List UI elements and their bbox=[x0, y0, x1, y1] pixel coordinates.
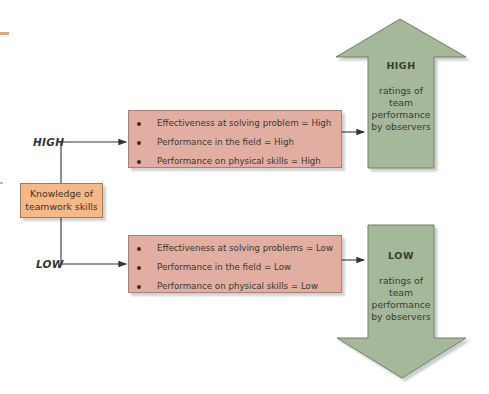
low-result-level: LOW bbox=[368, 250, 434, 262]
outcome-item: Performance in the field = High bbox=[137, 133, 341, 152]
outcome-item: Performance on physical skills = Low bbox=[137, 277, 341, 296]
bullet-icon bbox=[137, 141, 141, 145]
low-outcomes-box: Effectiveness at solving problems = Low … bbox=[128, 235, 342, 293]
bullet-icon bbox=[137, 122, 141, 126]
outcome-item: Effectiveness at solving problems = Low bbox=[137, 239, 341, 258]
outcome-item: Performance in the field = Low bbox=[137, 258, 341, 277]
predictor-label-line1: Knowledge of bbox=[30, 188, 93, 199]
high-outcomes-box: Effectiveness at solving problem = High … bbox=[128, 110, 342, 168]
outcome-item: Performance on physical skills = High bbox=[137, 152, 341, 171]
high-result-level: HIGH bbox=[368, 60, 434, 72]
bullet-icon bbox=[137, 266, 141, 270]
predictor-box: Knowledge of teamwork skills bbox=[20, 183, 103, 218]
high-level-label: HIGH bbox=[33, 136, 64, 148]
bullet-icon bbox=[137, 160, 141, 164]
low-level-label: LOW bbox=[36, 258, 64, 270]
high-result-text: HIGH ratings of team performance by obse… bbox=[368, 60, 434, 133]
bullet-icon bbox=[137, 285, 141, 289]
predictor-label-line2: teamwork skills bbox=[25, 201, 97, 212]
low-result-text: LOW ratings of team performance by obser… bbox=[368, 250, 434, 323]
outcome-item: Effectiveness at solving problem = High bbox=[137, 114, 341, 133]
bullet-icon bbox=[137, 247, 141, 251]
